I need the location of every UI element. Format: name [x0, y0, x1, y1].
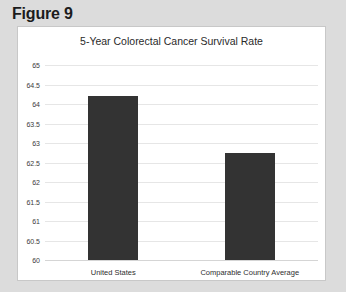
- gridline: [45, 163, 318, 164]
- bar: [88, 96, 138, 260]
- x-axis-tick-label: Comparable Country Average: [200, 268, 299, 277]
- x-axis-tick-label: United States: [91, 268, 136, 277]
- y-axis-tick-label: 65: [32, 62, 40, 69]
- figure-label: Figure 9: [12, 5, 73, 23]
- y-axis-tick-label: 64.5: [26, 81, 40, 88]
- chart-panel: 5-Year Colorectal Cancer Survival Rate 6…: [17, 26, 326, 281]
- y-axis-tick-label: 63: [32, 140, 40, 147]
- y-axis-tick-label: 61: [32, 218, 40, 225]
- y-axis-tick-label: 60.5: [26, 237, 40, 244]
- gridline: [45, 85, 318, 86]
- y-axis-tick-label: 63.5: [26, 120, 40, 127]
- gridline: [45, 143, 318, 144]
- chart-title: 5-Year Colorectal Cancer Survival Rate: [18, 35, 325, 47]
- y-axis-tick-label: 64: [32, 101, 40, 108]
- gridline: [45, 241, 318, 242]
- y-axis-tick-label: 60: [32, 257, 40, 264]
- bar: [225, 153, 275, 260]
- plot-area: 6564.56463.56362.56261.56160.560United S…: [45, 65, 318, 260]
- y-axis-tick-label: 62.5: [26, 159, 40, 166]
- gridline: [45, 221, 318, 222]
- gridline: [45, 202, 318, 203]
- y-axis-tick-label: 61.5: [26, 198, 40, 205]
- y-axis-tick-label: 62: [32, 179, 40, 186]
- figure-page: Figure 9 5-Year Colorectal Cancer Surviv…: [0, 0, 346, 292]
- gridline: [45, 104, 318, 105]
- gridline: [45, 260, 318, 261]
- gridline: [45, 124, 318, 125]
- gridline: [45, 65, 318, 66]
- gridline: [45, 182, 318, 183]
